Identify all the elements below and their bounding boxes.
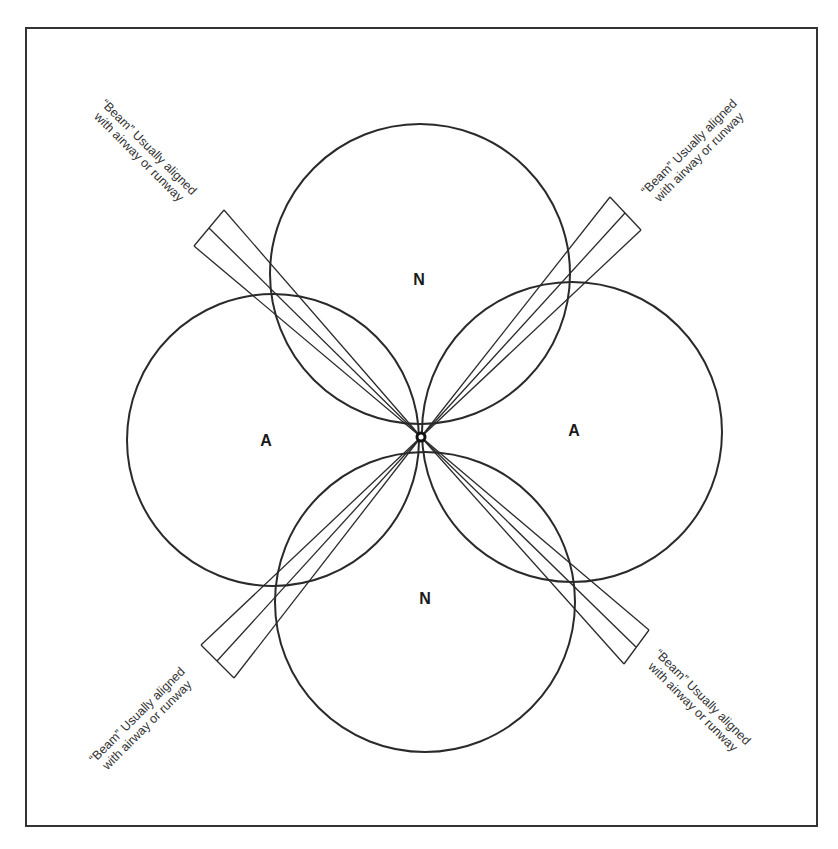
beam-note-top-right: “Beam” Usually aligned with airway or ru… (639, 97, 750, 208)
radio-range-diagram: N A A N “Beam” Usually aligned with airw… (0, 0, 838, 849)
lobe-label-top: N (413, 271, 425, 288)
svg-text:with airway or runway: with airway or runway (645, 659, 741, 755)
beam-note-top-left: “Beam” Usually aligned with airway or ru… (88, 97, 199, 208)
beam-note-bottom-right: “Beam” Usually aligned with airway or ru… (642, 647, 753, 758)
svg-text:with airway or runway: with airway or runway (651, 109, 747, 205)
svg-text:“Beam” Usually aligned: “Beam” Usually aligned (652, 647, 753, 748)
svg-text:“Beam” Usually aligned: “Beam” Usually aligned (98, 97, 199, 198)
beam-top-right (421, 197, 641, 437)
svg-text:with airway or runway: with airway or runway (99, 677, 195, 773)
svg-text:“Beam” Usually aligned: “Beam” Usually aligned (639, 97, 740, 198)
lobe-label-bottom: N (419, 590, 431, 607)
station-center-icon (417, 433, 425, 441)
lobe-left-a (127, 294, 419, 586)
beam-bottom-right (421, 437, 649, 664)
beam-note-bottom-left: “Beam” Usually aligned with airway or ru… (87, 665, 198, 776)
lobe-label-left: A (260, 432, 272, 449)
beam-top-left (194, 210, 421, 437)
svg-text:with airway or runway: with airway or runway (91, 109, 187, 205)
beam-bottom-left (201, 437, 421, 678)
lobe-label-right: A (568, 422, 580, 439)
svg-text:“Beam” Usually aligned: “Beam” Usually aligned (87, 665, 188, 766)
